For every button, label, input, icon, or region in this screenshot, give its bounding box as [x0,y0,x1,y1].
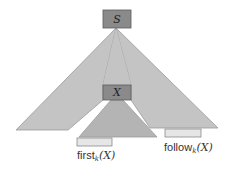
follow-k-text: follow [164,141,192,153]
inner-node-label: X [112,86,122,99]
first-k-text: first [77,149,95,161]
svg-text:firstk(X): firstk(X) [77,149,115,163]
root-node: S [103,10,131,28]
first-k-bar [77,138,112,146]
first-k-label: firstk(X) [77,149,115,163]
follow-k-argument: (X) [196,141,212,154]
root-node-label: S [113,13,121,26]
follow-k-label: followk(X) [164,141,213,155]
inner-node: X [103,85,131,100]
parse-tree-diagram: S X firstk(X) followk(X) [0,0,232,174]
first-k-argument: (X) [99,149,115,162]
follow-k-bar [165,129,201,137]
svg-text:followk(X): followk(X) [164,141,213,155]
